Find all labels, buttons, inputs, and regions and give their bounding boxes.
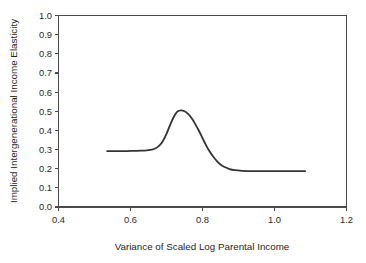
x-tick-label: 0.6 bbox=[124, 214, 137, 225]
y-tick-label: 0.8 bbox=[39, 48, 52, 59]
y-axis-title: Implied Intergenerational Income Elastic… bbox=[8, 19, 19, 203]
y-tick-label: 0.6 bbox=[39, 87, 52, 98]
y-tick-label: 0.1 bbox=[39, 182, 52, 193]
y-tick-label: 0.4 bbox=[39, 125, 52, 136]
y-tick-label: 0.0 bbox=[39, 201, 52, 212]
y-axis: 0.00.10.20.30.40.50.60.70.80.91.0 bbox=[39, 10, 59, 213]
x-axis: 0.40.60.81.01.2 bbox=[52, 207, 353, 225]
x-tick-label: 0.4 bbox=[52, 214, 65, 225]
plot-area-border bbox=[59, 16, 347, 208]
y-tick-label: 0.7 bbox=[39, 67, 52, 78]
x-tick-label: 1.0 bbox=[268, 214, 281, 225]
y-tick-label: 1.0 bbox=[39, 10, 52, 21]
line-chart: 0.00.10.20.30.40.50.60.70.80.91.0 0.40.6… bbox=[0, 0, 366, 263]
y-tick-label: 0.2 bbox=[39, 163, 52, 174]
y-tick-label: 0.9 bbox=[39, 29, 52, 40]
plot-frame bbox=[59, 16, 347, 208]
chart-figure: 0.00.10.20.30.40.50.60.70.80.91.0 0.40.6… bbox=[0, 0, 366, 263]
y-tick-label: 0.3 bbox=[39, 144, 52, 155]
x-tick-label: 0.8 bbox=[196, 214, 209, 225]
x-axis-title: Variance of Scaled Log Parental Income bbox=[115, 241, 290, 252]
y-tick-label: 0.5 bbox=[39, 106, 52, 117]
x-tick-label: 1.2 bbox=[340, 214, 353, 225]
